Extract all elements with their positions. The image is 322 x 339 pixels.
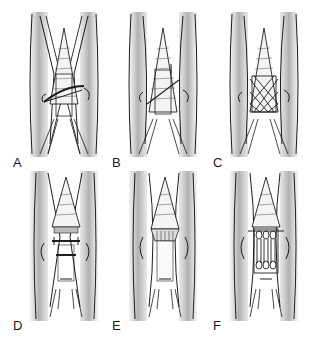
finger-illustration-d	[10, 167, 110, 332]
panel-label-d: D	[13, 319, 22, 332]
panel-b: B	[109, 4, 209, 169]
tendon-repair-figure: A B	[0, 0, 322, 339]
panel-c: C	[210, 4, 310, 169]
panel-f: F	[210, 167, 310, 332]
panel-a: A	[10, 4, 110, 169]
panel-e: E	[109, 167, 209, 332]
panel-d: D	[10, 167, 110, 332]
finger-illustration-e	[109, 167, 209, 332]
finger-illustration-b	[109, 4, 209, 169]
panel-label-f: F	[213, 319, 221, 332]
finger-illustration-f	[210, 167, 310, 332]
panel-label-e: E	[112, 319, 121, 332]
finger-illustration-a	[10, 4, 110, 169]
finger-illustration-c	[210, 4, 310, 169]
